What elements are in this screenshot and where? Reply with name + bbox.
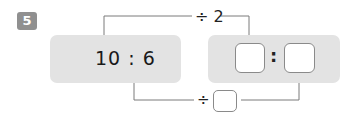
answer-box-first[interactable] [235, 43, 265, 73]
answer-box-second[interactable] [284, 43, 315, 73]
divisor-answer-box[interactable] [213, 90, 237, 112]
divide-symbol: ÷ [197, 91, 210, 109]
top-operation-label: ÷ 2 [195, 7, 224, 26]
left-ratio-text: 10 : 6 [95, 47, 156, 69]
right-ratio-colon: : [270, 45, 277, 66]
